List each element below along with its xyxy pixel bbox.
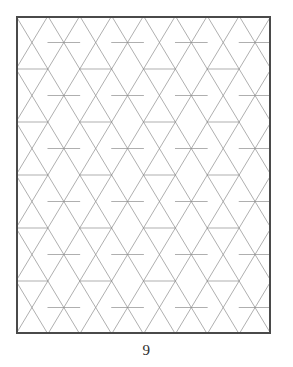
page-number: 9 [0,340,293,360]
tiling-pattern-svg [16,16,271,334]
page-canvas: 9 [0,0,293,367]
figure-frame [16,16,271,334]
